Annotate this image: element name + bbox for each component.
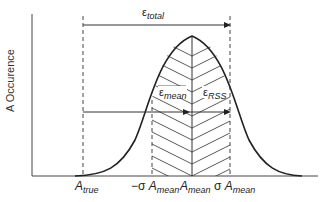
hatch-left: [120, 20, 200, 202]
e-rss-label: εRSS: [202, 86, 227, 98]
distribution-diagram: [0, 0, 333, 202]
x-tick-plus-sigma: σ Amean: [214, 179, 255, 193]
e-total-arrowhead: [224, 22, 231, 28]
y-axis-label: A Occurence: [4, 49, 16, 112]
e-mean-label: εmean: [158, 86, 187, 98]
gaussian-curve: [75, 36, 302, 176]
x-tick-mean: Amean: [180, 179, 211, 193]
x-tick-a-true: Atrue: [75, 179, 99, 193]
e-total-label: εtotal: [142, 6, 164, 18]
x-tick-minus-sigma: −σ Amean: [131, 179, 179, 193]
